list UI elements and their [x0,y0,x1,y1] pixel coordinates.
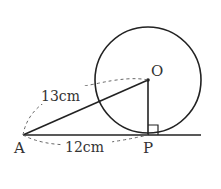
tangent-circle-diagram: 13cm 12cm O A P [0,0,221,189]
label-ap-length: 12cm [65,139,104,155]
label-point-o: O [151,62,163,80]
label-point-p: P [143,139,153,157]
label-ao-length: 13cm [41,88,80,104]
label-point-a: A [13,139,25,157]
